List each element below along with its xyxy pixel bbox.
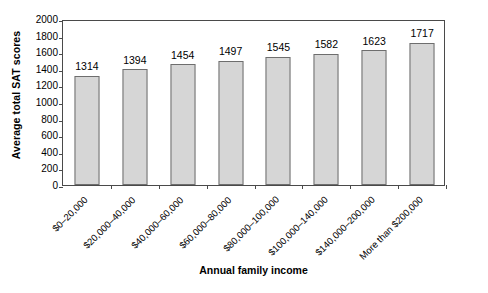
y-axis-tick-mark: [59, 38, 63, 39]
plot-area: 13141394145414971545158216231717: [62, 20, 445, 186]
x-axis-tick-mark: [398, 185, 399, 189]
bar-slot: 1717: [398, 21, 446, 185]
bar-value-label: 1454: [171, 50, 194, 61]
y-axis-tick-labels: 2000180016001400120010008006004002000: [26, 14, 58, 189]
y-axis-tick-label: 1600: [26, 48, 58, 58]
bar[interactable]: [410, 43, 435, 186]
bar-value-label: 1717: [410, 28, 433, 39]
bar-slot: 1454: [159, 21, 207, 185]
bar-slot: 1623: [350, 21, 398, 185]
bar[interactable]: [74, 76, 99, 185]
bar-slot: 1582: [302, 21, 350, 185]
bar[interactable]: [170, 64, 195, 185]
y-axis-tick-label: 0: [26, 181, 58, 191]
y-axis-tick-mark: [59, 21, 63, 22]
y-axis-tick-mark: [59, 54, 63, 55]
bar[interactable]: [362, 50, 387, 185]
x-axis-tick-mark: [302, 185, 303, 189]
x-axis-tick-labels: $0–20,000$20,000–40,000$40,000–60,000$60…: [62, 190, 445, 258]
bar-series: 13141394145414971545158216231717: [63, 21, 444, 185]
x-axis-title: Annual family income: [62, 264, 445, 276]
x-axis-tick-label: $0–20,000: [50, 194, 90, 234]
y-axis-tick-mark: [59, 137, 63, 138]
x-axis-tick-mark: [207, 185, 208, 189]
y-axis-tick-mark: [59, 87, 63, 88]
y-axis-tick-label: 200: [26, 164, 58, 174]
y-axis-tick-label: 800: [26, 115, 58, 125]
chart-screenshot: Average total SAT scores 200018001600140…: [0, 0, 488, 293]
bar-value-label: 1545: [267, 42, 290, 53]
y-axis-tick-mark: [59, 170, 63, 171]
y-axis-tick-mark: [59, 71, 63, 72]
x-axis-tick-mark: [350, 185, 351, 189]
y-axis-tick-label: 1200: [26, 81, 58, 91]
y-axis-tick-label: 1400: [26, 65, 58, 75]
y-axis-tick-label: 1000: [26, 98, 58, 108]
bar-slot: 1394: [111, 21, 159, 185]
bar[interactable]: [218, 61, 243, 185]
y-axis-tick-mark: [59, 121, 63, 122]
y-axis-tick-mark: [59, 187, 63, 188]
bar-value-label: 1394: [123, 55, 146, 66]
y-axis-tick-mark: [59, 154, 63, 155]
x-axis-tick-mark: [111, 185, 112, 189]
bar-value-label: 1314: [75, 61, 98, 72]
y-axis-tick-label: 400: [26, 148, 58, 158]
y-axis-title-text: Average total SAT scores: [10, 31, 22, 159]
bar-value-label: 1497: [219, 46, 242, 57]
x-axis-tick-mark: [159, 185, 160, 189]
y-axis-tick-mark: [59, 104, 63, 105]
bar[interactable]: [122, 69, 147, 185]
y-axis-tick-label: 2000: [26, 15, 58, 25]
bar-value-label: 1623: [363, 36, 386, 47]
bar[interactable]: [266, 57, 291, 185]
bar-slot: 1497: [207, 21, 255, 185]
y-axis-tick-label: 1800: [26, 32, 58, 42]
x-axis-tick-mark: [446, 185, 447, 189]
y-axis-tick-label: 600: [26, 131, 58, 141]
bar-value-label: 1582: [315, 39, 338, 50]
x-axis-tick-mark: [255, 185, 256, 189]
y-axis-title: Average total SAT scores: [6, 0, 26, 190]
bar-slot: 1545: [255, 21, 303, 185]
bar[interactable]: [314, 54, 339, 185]
bar-slot: 1314: [63, 21, 111, 185]
